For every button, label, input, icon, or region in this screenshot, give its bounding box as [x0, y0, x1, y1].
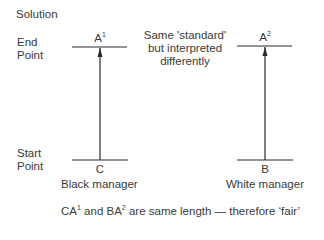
label-c: C [85, 163, 115, 176]
label-b: B [250, 163, 280, 176]
right-arrowhead-icon [263, 47, 268, 56]
white-manager-caption: White manager [226, 178, 304, 191]
label-a1: A1 [85, 32, 115, 45]
left-arrowhead-icon [98, 48, 103, 57]
black-manager-caption: Black manager [61, 178, 138, 191]
conclusion-text: CA1 and BA2 are same length — therefore … [61, 205, 300, 218]
label-a2: A2 [250, 31, 280, 44]
